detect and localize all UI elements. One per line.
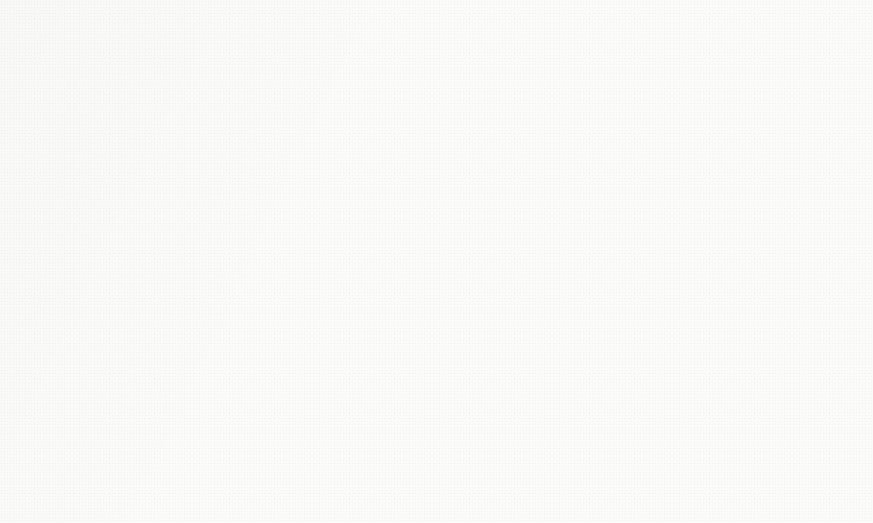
legend-item-label: OTAs [716,388,750,403]
legend-item[interactable]: OTAs [700,370,873,420]
legend-item-label: Daily Mail [716,238,776,253]
chart-title: % Source of Bookings [150,41,690,72]
legend-item[interactable]: Recommended [700,420,873,470]
legend-item[interactable]: Mail Shots [700,320,873,370]
legend-item-label: Website Direct [716,188,805,203]
pie-slice-data-label: 7% [561,274,581,289]
legend-item[interactable]: Website Direct [700,170,873,220]
legend-item-label: Recommended [716,438,809,453]
pie-slice-data-label: 22% [502,193,529,208]
legend-swatch-icon [700,340,711,351]
legend-item-label: Mail Shots [716,338,780,353]
pie-slice-data-label: 11% [356,176,382,191]
legend-item[interactable]: Daily Mail [700,220,873,270]
chart-legend: Social MediaWebsite DirectDaily MailRadi… [700,120,873,470]
legend-swatch-icon [700,240,711,251]
legend-swatch-icon [700,190,711,201]
legend-swatch-icon [700,290,711,301]
legend-swatch-icon [700,390,711,401]
pie-slice-data-label: 18% [263,240,290,255]
legend-item[interactable]: Radio [700,270,873,320]
pie-chart-svg: 22%7%8%12%22%18%11% [175,98,665,473]
pie-chart: 22%7%8%12%22%18%11% [175,98,665,473]
legend-item[interactable]: Social Media [700,120,873,170]
pie-slice-data-label: 12% [471,362,498,377]
legend-swatch-icon [700,140,711,151]
legend-item-label: Radio [716,288,752,303]
legend-swatch-icon [700,440,711,451]
pie-slice-data-label: 8% [542,320,562,335]
pie-slice-data-label: 22% [318,353,345,368]
legend-item-label: Social Media [716,138,795,153]
